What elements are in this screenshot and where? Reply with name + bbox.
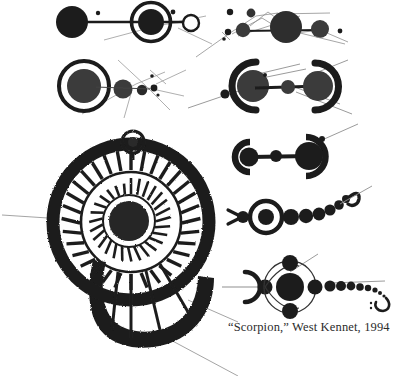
chain-disc-small [247,9,256,18]
satellite-dot [171,10,176,15]
chain-disc-small [227,9,233,15]
bar-node-disc [281,80,295,94]
annulus-filled-core [138,9,164,35]
large-central-disc [276,273,304,301]
chain-disc-dot [222,37,226,41]
tail-dot [370,307,372,309]
satellite-bottom [282,303,298,319]
chain-disc-medium [311,20,329,38]
chain-disc-medium [236,23,250,37]
chain-disc-small [225,29,231,35]
tail-dot [370,302,372,304]
satellite-dot [263,73,267,77]
crescent-disc-right [303,71,333,101]
chain-disc-small [137,85,147,95]
filled-disc [56,6,88,38]
figure-caption: “Scorpion,” West Kennet, 1994 [228,320,390,335]
satellite-dot [150,74,154,78]
annulus-filled-core [67,69,101,103]
annulus-filled-core [258,209,274,225]
chain-disc-large [270,11,302,43]
chain-disc-medium [114,80,133,99]
open-ring [183,15,199,31]
chain-disc-dot [156,93,159,96]
node-disc [308,280,323,295]
satellite-top [282,255,298,271]
bar-node-disc [270,150,282,162]
chain-disc-dot [338,29,343,34]
node-disc [237,211,249,223]
satellite-dot [96,11,100,15]
dense-hub [109,201,149,241]
chain-disc-tiny [151,85,158,92]
crescent-disc-right [295,142,323,170]
satellite-dot [220,89,229,98]
diagram-canvas: “Scorpion,” West Kennet, 1994 [0,0,403,376]
